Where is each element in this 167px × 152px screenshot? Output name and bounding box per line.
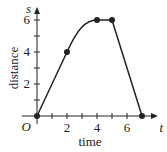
x-tick-label-6: 6	[124, 120, 131, 135]
x-axis-arrow-icon	[151, 113, 158, 119]
y-axis-title: distance	[6, 46, 21, 89]
x-tick-label-2: 2	[64, 120, 71, 135]
distance-curve	[37, 20, 142, 116]
y-tick-label-4: 4	[24, 44, 31, 59]
data-points	[34, 17, 145, 119]
point-7-0	[139, 113, 145, 119]
y-tick-label-2: 2	[24, 76, 31, 91]
x-tick-label-4: 4	[94, 120, 101, 135]
x-axis-title: time	[78, 134, 101, 149]
point-4-6	[94, 17, 100, 23]
y-axis-arrow-icon	[34, 7, 40, 14]
point-5-6	[109, 17, 115, 23]
point-2-4	[64, 49, 70, 55]
distance-time-chart: 2 4 6 2 4 6 O t s time distance	[0, 0, 167, 152]
origin-label: O	[22, 119, 32, 134]
x-axis-symbol: t	[159, 120, 163, 135]
y-axis-symbol: s	[26, 1, 31, 16]
point-0-0	[34, 113, 40, 119]
